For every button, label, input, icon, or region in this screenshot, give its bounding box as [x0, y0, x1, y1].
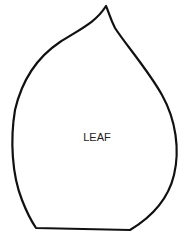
- leaf-outline: [12, 6, 176, 230]
- leaf-label: LEAF: [83, 131, 111, 143]
- leaf-diagram: LEAF: [0, 0, 192, 246]
